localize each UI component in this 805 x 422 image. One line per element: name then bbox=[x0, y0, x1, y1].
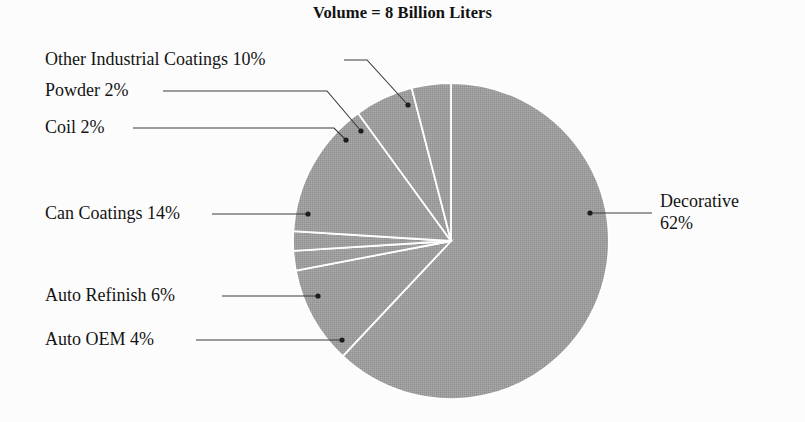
dot-powder bbox=[358, 128, 363, 133]
label-decorative-value: 62% bbox=[660, 212, 790, 234]
dot-other-industrial bbox=[405, 102, 410, 107]
leader-coil bbox=[133, 128, 346, 140]
dot-auto-oem bbox=[339, 337, 344, 342]
label-decorative-name: Decorative bbox=[660, 190, 790, 212]
label-auto-oem: Auto OEM 4% bbox=[45, 328, 154, 350]
dot-auto-refinish bbox=[315, 293, 320, 298]
label-can-coatings: Can Coatings 14% bbox=[45, 202, 180, 224]
pie-slices bbox=[293, 83, 609, 399]
label-other-industrial-coatings: Other Industrial Coatings 10% bbox=[45, 48, 265, 70]
dot-can-coatings bbox=[305, 211, 310, 216]
dot-decorative bbox=[587, 210, 592, 215]
pie-chart-figure: Volume = 8 Billion Liters bbox=[0, 0, 805, 422]
label-coil: Coil 2% bbox=[45, 116, 105, 138]
leader-powder bbox=[163, 91, 361, 131]
dot-coil bbox=[343, 137, 348, 142]
label-powder: Powder 2% bbox=[45, 79, 129, 101]
label-auto-refinish: Auto Refinish 6% bbox=[45, 284, 175, 306]
label-decorative: Decorative 62% bbox=[660, 190, 790, 234]
